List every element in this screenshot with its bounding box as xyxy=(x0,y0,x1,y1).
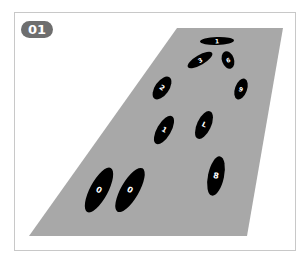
hopscotch-floor-illustration: 136921L800 xyxy=(0,0,308,256)
footprint-number: 1 xyxy=(215,37,219,44)
